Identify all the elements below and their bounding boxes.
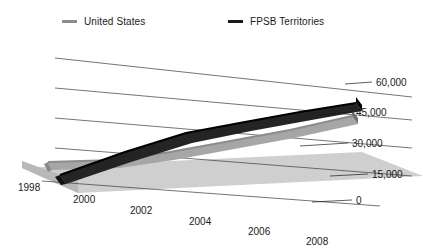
gridline-60000: [55, 58, 412, 97]
y-tick-label: 0: [356, 195, 362, 206]
chart-container: United States FPSB Territories: [0, 0, 423, 251]
y-tick-label: 45,000: [356, 107, 387, 118]
x-tick-label: 1998: [18, 182, 41, 193]
x-tick-label: 2004: [189, 216, 212, 227]
x-tick-label: 2006: [248, 226, 271, 237]
y-tick-label: 60,000: [376, 77, 407, 88]
x-axis-labels: 1998 2000 2002 2004 2006 2008: [18, 182, 329, 247]
y-tick-label: 30,000: [352, 138, 383, 149]
x-tick-label: 2002: [130, 205, 153, 216]
chart-plot-area: 60,000 45,000 30,000 15,000 0 1998 2000 …: [0, 0, 423, 251]
y-tick-label: 15,000: [372, 169, 403, 180]
y-axis-labels: 60,000 45,000 30,000 15,000 0: [352, 77, 407, 206]
x-tick-label: 2000: [73, 194, 96, 205]
x-tick-label: 2008: [306, 236, 329, 247]
